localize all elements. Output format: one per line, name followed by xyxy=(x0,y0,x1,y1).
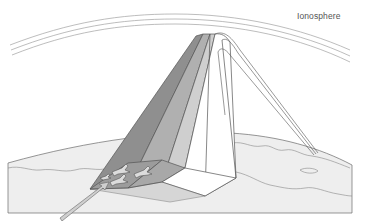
ionosphere-label: Ionosphere xyxy=(297,11,341,21)
ionosphere-layer xyxy=(10,14,350,62)
radar-ionosphere-diagram xyxy=(0,0,368,221)
